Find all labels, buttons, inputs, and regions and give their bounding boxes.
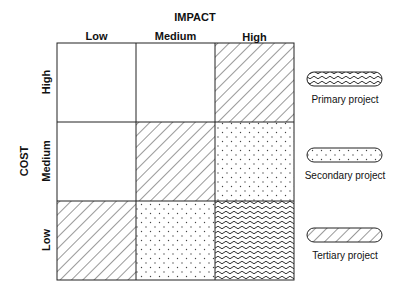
x-level-medium: Medium: [136, 30, 215, 42]
legend-primary-label: Primary project: [290, 94, 400, 105]
legend-tertiary-swatch: [307, 228, 382, 242]
legend-secondary-label: Secondary project: [290, 170, 400, 181]
cell-high-cost-high-impact: [215, 43, 294, 122]
x-level-low: Low: [57, 30, 136, 42]
y-axis-title: COST: [18, 131, 30, 191]
legend-secondary-swatch: [307, 148, 382, 162]
cell-low-cost-medium-impact: [136, 201, 215, 280]
x-level-high: High: [215, 31, 294, 43]
y-level-high: High: [40, 52, 52, 112]
legend-primary-swatch: [307, 72, 382, 86]
cell-medium-cost-high-impact: [215, 122, 294, 201]
cell-medium-cost-medium-impact: [136, 122, 215, 201]
y-level-medium: Medium: [40, 131, 52, 191]
cell-low-cost-low-impact: [57, 201, 136, 280]
x-axis-title: IMPACT: [155, 11, 235, 23]
legend-tertiary-label: Tertiary project: [290, 250, 400, 261]
cell-low-cost-high-impact: [215, 201, 294, 280]
y-level-low: Low: [40, 210, 52, 270]
